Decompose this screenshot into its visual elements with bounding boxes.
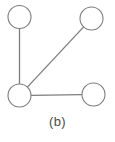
edge-hub-to-top-right: [27, 27, 83, 87]
graph-node-bottom-right[interactable]: [82, 83, 105, 106]
graph-figure: (b): [0, 0, 115, 142]
graph-canvas: [0, 0, 115, 115]
figure-caption: (b): [0, 113, 115, 130]
edge-hub-to-bottom-right: [31, 95, 82, 96]
edge-group: [20, 27, 84, 95]
graph-node-top-left[interactable]: [8, 6, 31, 29]
graph-node-top-right[interactable]: [80, 7, 103, 30]
graph-node-hub[interactable]: [8, 84, 31, 107]
